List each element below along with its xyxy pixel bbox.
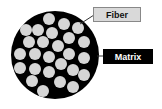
fiber <box>32 24 44 36</box>
fiber <box>43 66 55 78</box>
matrix-label: Matrix <box>103 49 153 64</box>
fiber <box>58 18 70 30</box>
fiber <box>37 36 49 48</box>
fiber <box>43 13 55 25</box>
fiber <box>78 36 90 48</box>
fiber <box>43 51 55 63</box>
fiber <box>26 75 38 87</box>
fiber <box>37 85 49 97</box>
fiber <box>14 62 26 74</box>
fiber <box>67 81 79 93</box>
fiber <box>67 64 79 76</box>
fiber <box>78 69 90 81</box>
fiber <box>14 48 26 60</box>
fiber-leader-line <box>80 15 94 24</box>
fiber <box>63 48 75 60</box>
fiber <box>20 24 32 36</box>
fiber <box>63 32 75 44</box>
fiber <box>55 58 67 70</box>
fiber <box>23 36 35 48</box>
fiber <box>52 40 64 52</box>
fiber-label: Fiber <box>93 7 141 22</box>
fiber <box>78 52 90 64</box>
fiber <box>46 27 58 39</box>
fiber <box>29 48 41 60</box>
fiber <box>72 22 84 34</box>
fiber <box>29 63 41 75</box>
fiber <box>54 76 66 88</box>
